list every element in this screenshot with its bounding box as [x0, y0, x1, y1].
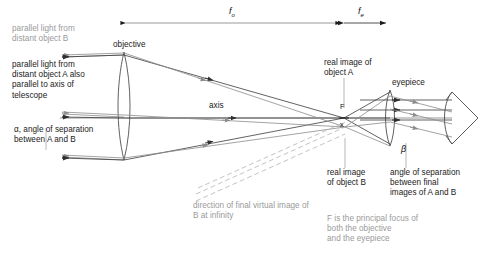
ray-a-conv-arrow-1: [205, 78, 213, 80]
label-real-image-object-a: real image of object A: [324, 58, 372, 78]
ray-a-div-3: [344, 118, 390, 144]
ray-b-conv-3: [124, 127, 345, 158]
ray-a-conv-arrow-3: [205, 141, 213, 143]
f-eyepiece-label: fe: [358, 6, 364, 18]
label-beta-symbol: β: [401, 144, 406, 154]
label-objective: objective: [113, 40, 146, 50]
emergent-rays-object-b: [390, 96, 452, 137]
virtual-image-direction-rays: [196, 122, 345, 201]
leader-lines: [46, 78, 406, 168]
f-objective-label: fo: [229, 6, 235, 18]
ray-b-out-arrow-3: [410, 127, 418, 129]
label-image-point-x: x: [340, 120, 344, 129]
ray-b-out-3: [390, 122, 452, 137]
telescope-ray-diagram: fo fe parallel light from distant object…: [0, 0, 484, 254]
label-alpha-angle-separation: α, angle of separation between A and B: [14, 125, 93, 145]
objective-lens: [118, 52, 130, 160]
converging-rays-object-b: [124, 53, 345, 158]
ray-b-out-2: [390, 109, 452, 124]
emergent-rays-object-a: [360, 100, 452, 120]
converging-rays-object-a: [124, 55, 344, 160]
ray-b-conv-1: [124, 53, 345, 127]
label-virtual-image-direction: direction of final virtual image of B at…: [193, 201, 309, 221]
label-eyepiece: eyepiece: [392, 78, 425, 88]
ray-a-in-1: [62, 55, 124, 57]
label-parallel-light-object-a: parallel light from distant object A als…: [12, 60, 85, 101]
label-parallel-light-object-b: parallel light from distant object B: [12, 24, 75, 44]
ray-a-div-1: [344, 92, 390, 118]
objective-lens-body: [118, 52, 130, 160]
ray-b-out-arrow-2: [410, 114, 418, 116]
ray-b-in-1: [62, 53, 124, 55]
diverging-rays-object-b: [345, 96, 390, 146]
ray-b-out-arrow-1: [410, 101, 418, 103]
label-principal-focus-F: F: [340, 102, 345, 111]
ray-b-div-3: [345, 127, 390, 146]
label-axis: axis: [209, 101, 224, 111]
label-principal-focus-note: F is the principal focus of both the obj…: [327, 214, 418, 245]
ray-b-conv-2: [124, 115, 345, 127]
virtual-ray-2: [196, 134, 345, 201]
label-real-image-object-b: real image of object B: [327, 168, 366, 188]
label-angle-separation-final-images: angle of separation between final images…: [390, 168, 460, 199]
ray-b-conv-arrow-2: [222, 120, 230, 121]
